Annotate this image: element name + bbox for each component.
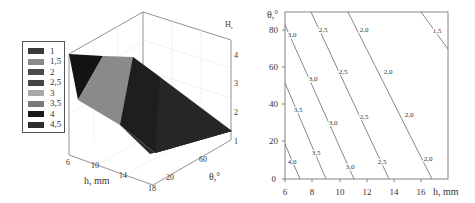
y-tick: 80 [269,25,279,35]
legend-item: 4 [28,109,64,120]
z-tick: 3 [234,79,238,88]
y-axis-label: θ,° [267,9,278,20]
contour-label: 2,5 [360,113,369,121]
contour-label: 1,5 [433,27,442,35]
y-tick: 0 [272,174,277,184]
contour-2-5 [311,12,389,179]
y-tick: 60 [269,62,279,72]
legend-item: 1 [28,46,64,57]
z-tick: 4 [234,51,238,60]
legend-swatch [28,59,44,65]
legend-item: 4,5 [28,120,64,131]
contour-label: 2,5 [339,68,348,76]
contour-label: 3,0 [309,75,318,83]
x-tick: 14 [119,171,127,180]
contour-label: 2,0 [384,68,393,76]
contour-2-0 [348,12,432,179]
contour-label: 2,5 [378,158,387,166]
contour-plot-panel: 0 20 40 60 80 θ,° 6 8 10 12 14 16 h, mm … [240,0,475,203]
contour-label: 4,0 [288,158,297,166]
legend-swatch [28,122,44,128]
contour-label: 2,0 [405,111,414,119]
contour-label: 3,0 [346,163,355,171]
y-tick: 20 [166,173,174,182]
legend-swatch [28,80,44,86]
x-tick: 6 [283,187,288,197]
legend-item: 2,5 [28,78,64,89]
legend-swatch [28,69,44,75]
legend-swatch [28,90,44,96]
contour-label: 3,5 [294,106,303,114]
x-axis-label: h, mm [433,186,459,197]
x-tick: 12 [363,187,372,197]
legend-item: 1,5 [28,57,64,68]
x-tick: 8 [310,187,315,197]
z-tick: 1 [234,137,238,146]
z-tick: 2 [234,108,238,117]
legend: 1 1,5 2 2,5 3 3,5 4 4,5 [22,41,65,133]
contour-label: 2,0 [424,155,433,163]
contour-label: 2,5 [319,26,328,34]
x-tick: 18 [148,184,156,193]
z-axis-label: Hc [225,20,234,30]
x-tick: 14 [390,187,400,197]
x-axis-label: h, mm [84,175,110,186]
legend-swatch [28,48,44,54]
legend-item: 3 [28,88,64,99]
contour-plot: 0 20 40 60 80 θ,° 6 8 10 12 14 16 h, mm … [240,0,475,203]
legend-swatch [28,111,44,117]
legend-item: 3,5 [28,99,64,110]
y-tick: 40 [269,99,279,109]
contour-lines [285,12,448,179]
x-tick: 10 [336,187,346,197]
plot-frame [285,12,448,179]
x-tick: 16 [417,187,427,197]
contour-label: 3,5 [312,149,321,157]
contour-label: 3,0 [329,119,338,127]
contour-label: 2,0 [360,26,369,34]
x-tick: 10 [91,161,99,170]
x-tick: 6 [66,158,70,167]
legend-item: 2 [28,67,64,78]
y-tick: 20 [269,136,279,146]
surface-plot-panel: Hc 4 3 2 1 6 10 14 18 h, mm 20 60 θ,° 1 … [0,0,240,203]
y-tick: 60 [199,155,207,164]
legend-swatch [28,101,44,107]
y-axis-label: θ,° [209,171,220,182]
contour-label: 3,0 [288,31,297,39]
surface [69,54,232,154]
